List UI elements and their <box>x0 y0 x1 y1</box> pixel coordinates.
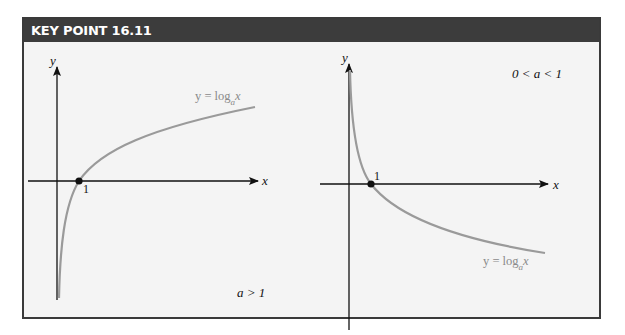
graph-a-between-0-and-1: x y 1 y = logax 0 < a < 1 <box>320 50 562 330</box>
log-curve-decreasing <box>350 70 545 253</box>
intercept-label: 1 <box>374 169 380 183</box>
x-axis-label: x <box>552 177 559 192</box>
graph-a-greater-than-1: x y 1 y = logax a > 1 <box>28 53 268 300</box>
y-axis-label: y <box>48 53 56 68</box>
condition-label: 0 < a < 1 <box>512 66 562 81</box>
intercept-label: 1 <box>83 182 89 196</box>
curve-label: y = logax <box>483 254 529 272</box>
condition-label: a > 1 <box>237 285 265 300</box>
y-axis-label: y <box>340 50 348 65</box>
log-graphs: x y 1 y = logax a > 1 x y 1 y = logax 0 … <box>0 0 625 335</box>
x-axis-label: x <box>261 173 268 188</box>
log-curve-increasing <box>59 107 255 298</box>
intercept-point <box>75 177 82 184</box>
curve-label: y = logax <box>195 89 241 107</box>
